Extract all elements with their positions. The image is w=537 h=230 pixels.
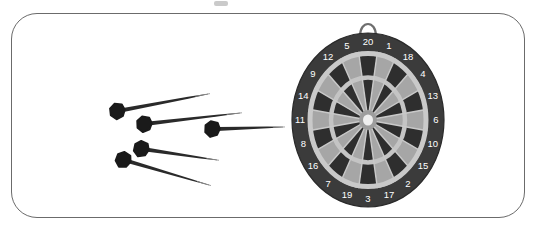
- dart-tip: [227, 113, 242, 115]
- dartboard-number-17: 17: [384, 189, 395, 200]
- dartboard-number-1: 1: [386, 40, 391, 51]
- dart-shaft: [149, 111, 240, 126]
- dart-shaft: [217, 125, 283, 131]
- dart-tip: [197, 182, 211, 186]
- dart-tip: [207, 158, 219, 160]
- dart-flight: [136, 115, 153, 133]
- dartboard-number-20: 20: [363, 36, 374, 47]
- dart-items: [109, 86, 286, 193]
- darts-svg: [85, 85, 295, 200]
- dartboard-number-19: 19: [342, 189, 353, 200]
- dart-1: [109, 86, 212, 121]
- dart-flight: [109, 102, 127, 121]
- dartboard-number-16: 16: [308, 160, 319, 171]
- dartboard-number-18: 18: [403, 51, 414, 62]
- dartboard-number-2: 2: [405, 178, 410, 189]
- dartboard-number-3: 3: [365, 193, 370, 204]
- dartboard-number-13: 13: [427, 90, 438, 101]
- inner-bull: [363, 114, 373, 125]
- dartboard-number-7: 7: [325, 178, 330, 189]
- dart-flight: [133, 140, 150, 158]
- dartboard-number-12: 12: [323, 51, 334, 62]
- scan-artifact: [214, 1, 228, 6]
- darts-group: [85, 85, 285, 195]
- dartboard-number-6: 6: [433, 114, 438, 125]
- dart-4: [133, 140, 220, 168]
- dartboard-number-11: 11: [295, 114, 305, 125]
- dartboard-number-15: 15: [418, 160, 429, 171]
- dartboard-number-14: 14: [298, 90, 309, 101]
- dartboard: 2011841361015217319716811149125: [280, 14, 455, 214]
- dart-shaft: [146, 148, 218, 162]
- dartboard-number-10: 10: [427, 138, 438, 149]
- dartboard-number-5: 5: [344, 40, 349, 51]
- dartboard-number-8: 8: [301, 138, 306, 149]
- dart-shaft: [127, 159, 209, 187]
- dart-3: [205, 119, 285, 137]
- dart-shaft: [122, 92, 209, 112]
- dart-flight: [114, 150, 133, 170]
- dartboard-svg: 2011841361015217319716811149125: [280, 14, 455, 214]
- dart-tip: [195, 94, 210, 97]
- dart-flight: [205, 121, 220, 137]
- dartboard-number-9: 9: [310, 68, 315, 79]
- illustration-canvas: 2011841361015217319716811149125: [0, 0, 537, 230]
- dartboard-number-4: 4: [420, 68, 425, 79]
